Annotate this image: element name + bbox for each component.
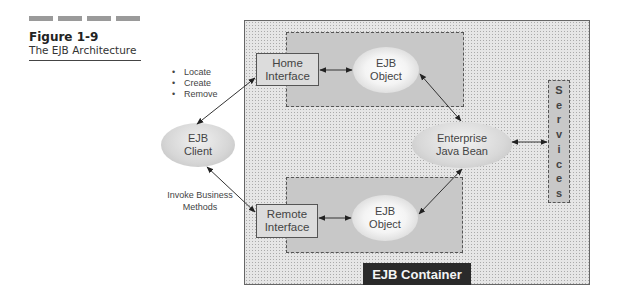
- object-bean-arrow-bottom: [419, 169, 462, 214]
- object-bean-arrow-top: [420, 74, 461, 121]
- client-remote-arrow: [207, 167, 255, 212]
- client-home-arrow: [197, 78, 255, 124]
- connector-arrows: [0, 0, 617, 299]
